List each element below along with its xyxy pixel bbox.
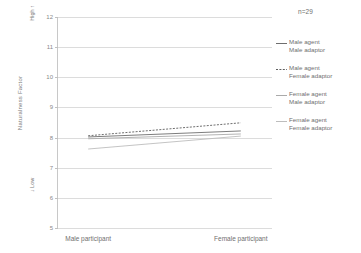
naturalness-factor-chart: n=29 Naturalness Factor High ↑ ↓ Low 121…	[0, 0, 361, 253]
y-axis-title: Naturalness Factor	[17, 55, 23, 151]
y-axis-tick-label: 7	[50, 165, 53, 171]
gridline	[57, 228, 272, 229]
legend-entry[interactable]: Female agentMale adaptor	[276, 90, 361, 106]
legend: Male agentMale adaptorMale agentFemale a…	[276, 38, 361, 142]
legend-line-swatch-icon	[276, 93, 287, 98]
legend-label-agent: Male agent	[289, 38, 320, 45]
y-axis-low-label: ↓ Low	[29, 165, 35, 205]
y-axis-tick-label: 8	[50, 135, 53, 141]
y-axis-high-label: High ↑	[29, 0, 35, 33]
legend-line-swatch-icon	[276, 67, 287, 72]
series-lines	[57, 17, 272, 228]
legend-line-swatch-icon	[276, 119, 287, 124]
legend-label-agent: Male agent	[289, 64, 320, 71]
legend-line-swatch-icon	[276, 41, 287, 46]
legend-entry[interactable]: Female agentFemale adaptor	[276, 116, 361, 132]
y-axis-tick-mark	[55, 228, 58, 229]
y-axis-tick-label: 11	[47, 44, 53, 50]
sample-size-annotation: n=29	[298, 8, 313, 15]
y-axis-tick-label: 12	[46, 14, 53, 20]
legend-entry[interactable]: Male agentFemale adaptor	[276, 64, 361, 80]
legend-label-adaptor: Male adaptor	[289, 98, 361, 106]
legend-label-adaptor: Male adaptor	[289, 46, 361, 54]
legend-label-adaptor: Female adaptor	[289, 72, 361, 80]
y-axis-tick-label: 6	[50, 195, 53, 201]
plot-area: 12111098765 Male participantFemale parti…	[57, 17, 272, 228]
y-axis-tick-label: 5	[50, 225, 53, 231]
x-axis-tick-label: Female participant	[214, 235, 267, 242]
y-axis-tick-label: 9	[50, 104, 53, 110]
legend-label-agent: Female agent	[289, 90, 327, 97]
legend-label-adaptor: Female adaptor	[289, 124, 361, 132]
x-axis-tick-label: Male participant	[65, 235, 111, 242]
legend-label-agent: Female agent	[289, 116, 327, 123]
y-axis-tick-label: 10	[46, 74, 53, 80]
legend-entry[interactable]: Male agentMale adaptor	[276, 38, 361, 54]
